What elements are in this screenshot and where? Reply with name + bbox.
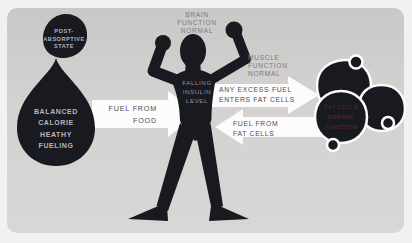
person-right-foot: [209, 204, 249, 221]
muscle-function-label: MUSCLE FUNCTION NORMAL: [248, 54, 288, 78]
person-left-fist: [155, 35, 171, 51]
fuel-from-fat-label: FUEL FROM FAT CELLS: [233, 119, 278, 139]
infographic-page: { "title": "Post-absorptive state fuel-f…: [0, 0, 412, 243]
person-right-leg: [197, 123, 224, 211]
person-left-leg: [157, 123, 195, 211]
fuel-from-food-label: FUEL FROM FOOD: [77, 103, 157, 126]
state-badge-label: POST- ABSORPTIVE STATE: [24, 28, 104, 51]
fat-cells-function-label: FAT CELLS NORMAL FUNCTION: [306, 102, 376, 132]
fat-cell-dot-bottom: [327, 139, 339, 151]
excess-fuel-label: ANY EXCESS FUEL ENTERS FAT CELLS: [219, 85, 295, 105]
fat-cell-dot-right: [382, 117, 394, 129]
brain-function-label: BRAIN FUNCTION NORMAL: [157, 11, 237, 35]
person-left-foot: [128, 204, 168, 221]
fat-cell-dot-top: [350, 56, 363, 69]
person-right-arm: [214, 33, 246, 78]
